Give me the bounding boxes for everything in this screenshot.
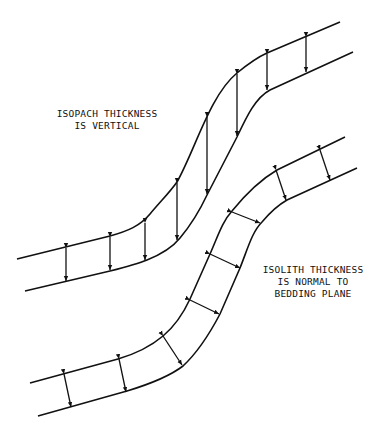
isolith-label: ISOLITH THICKNESS IS NORMAL TO BEDDING P…	[262, 264, 364, 300]
lower-bed-top-line	[30, 137, 345, 383]
upper-bed-bottom-line	[25, 52, 353, 291]
isopach-label-line1: ISOPACH THICKNESS	[52, 108, 162, 120]
thickness-diagram	[0, 0, 372, 432]
upper-bed-band	[17, 22, 353, 291]
isopach-label: ISOPACH THICKNESS IS VERTICAL	[52, 108, 162, 132]
isolith-label-line3: BEDDING PLANE	[262, 288, 364, 300]
upper-bed-top-line	[17, 22, 340, 259]
isolith-label-line1: ISOLITH THICKNESS	[262, 264, 364, 276]
vertical-thickness-arrows	[66, 37, 306, 281]
isolith-label-line2: IS NORMAL TO	[262, 276, 364, 288]
isopach-label-line2: IS VERTICAL	[52, 120, 162, 132]
